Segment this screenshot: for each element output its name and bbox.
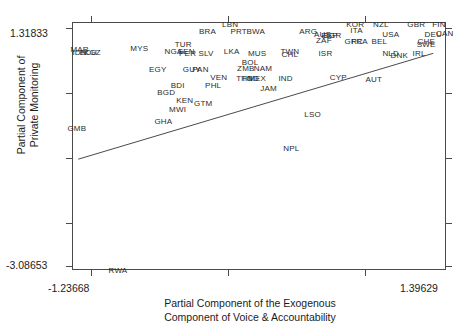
regression-fit-line xyxy=(73,23,447,271)
y-axis-title: Partial Component of Private Monitoring xyxy=(15,15,41,195)
data-point-label: AUT xyxy=(365,74,382,83)
data-point-label: CHL xyxy=(282,49,299,58)
y-axis-right-tick-bottom xyxy=(446,266,452,267)
x-axis-title-line-2: Component of Voice & Accountability xyxy=(120,310,380,324)
data-point-label: NPL xyxy=(283,143,299,152)
data-point-label: BRA xyxy=(199,26,216,35)
y-axis-right-tick-2 xyxy=(446,93,452,94)
data-point-label: MWI xyxy=(169,105,186,114)
data-point-label: FIN xyxy=(432,20,446,29)
data-point-label: MUS xyxy=(248,49,266,58)
data-point-label: MYS xyxy=(130,43,148,52)
x-axis-tick-3 xyxy=(365,270,366,276)
data-point-label: GMB xyxy=(67,124,86,133)
data-point-label: RWA xyxy=(109,265,128,274)
data-point-label: GTM xyxy=(194,99,212,108)
x-axis-top-tick-3 xyxy=(365,16,366,22)
data-point-label: NZL xyxy=(373,20,389,29)
data-point-label: MEX xyxy=(248,73,266,82)
data-point-label: IND xyxy=(278,73,292,82)
data-point-label: GBR xyxy=(407,20,425,29)
data-point-label: BWA xyxy=(247,26,266,35)
data-point-label: DNK xyxy=(390,51,408,60)
data-point-label: LSO xyxy=(304,110,321,119)
y-axis-tick-3 xyxy=(66,158,72,159)
data-point-label: JAM xyxy=(260,84,277,93)
y-axis-min-tick-label: -3.08653 xyxy=(6,259,47,271)
y-axis-tick-2 xyxy=(66,93,72,94)
data-point-label: KGZ xyxy=(84,48,101,57)
data-point-label: PAN xyxy=(192,65,208,74)
data-point-label: ITA xyxy=(350,26,362,35)
data-point-label: IRL xyxy=(413,49,426,58)
data-point-label: ZAF xyxy=(316,35,332,44)
y-axis-right-tick-4 xyxy=(446,223,452,224)
plot-area: LBNKORNZLGBRFINITABRAPRTBWAARGAUSESPBGRU… xyxy=(72,22,446,270)
y-axis-title-line-2: Private Monitoring xyxy=(28,15,41,195)
y-axis-tick-4 xyxy=(66,223,72,224)
data-point-label: PHL xyxy=(205,80,221,89)
x-axis-tick-2 xyxy=(228,270,229,276)
x-axis-title-line-1: Partial Component of the Exogenous xyxy=(120,296,380,310)
y-axis-tick-bottom xyxy=(66,266,72,267)
data-point-label: SLV xyxy=(199,48,214,57)
data-point-label: BEL xyxy=(371,36,387,45)
data-point-label: NAM xyxy=(254,63,272,72)
x-axis-max-tick-label: 1.39629 xyxy=(400,282,438,294)
data-point-label: LKA xyxy=(224,47,240,56)
y-axis-tick-top xyxy=(66,28,72,29)
data-point-label: SWE xyxy=(417,39,436,48)
x-axis-title: Partial Component of the Exogenous Compo… xyxy=(120,296,380,324)
data-point-label: PRT xyxy=(230,26,246,35)
data-point-label: PER xyxy=(179,49,196,58)
data-point-label: CAN xyxy=(436,29,454,38)
data-point-label: ZMB xyxy=(237,63,255,72)
data-point-label: CYP xyxy=(330,73,347,82)
y-axis-title-line-1: Partial Component of xyxy=(15,15,28,195)
data-point-label: EGY xyxy=(149,65,167,74)
data-point-label: GHA xyxy=(154,116,172,125)
data-point-label: ISR xyxy=(318,49,332,58)
x-axis-top-tick-1 xyxy=(91,16,92,22)
data-point-label: KEN xyxy=(176,96,193,105)
y-axis-right-tick-3 xyxy=(446,158,452,159)
data-point-label: FRA xyxy=(351,36,368,45)
data-point-label: BGD xyxy=(157,87,175,96)
x-axis-tick-1 xyxy=(91,270,92,276)
scatter-plot-screenshot: 1.31833 -3.08653 -1.23668 1.39629 Partia… xyxy=(0,0,470,332)
x-axis-min-tick-label: -1.23668 xyxy=(48,282,89,294)
